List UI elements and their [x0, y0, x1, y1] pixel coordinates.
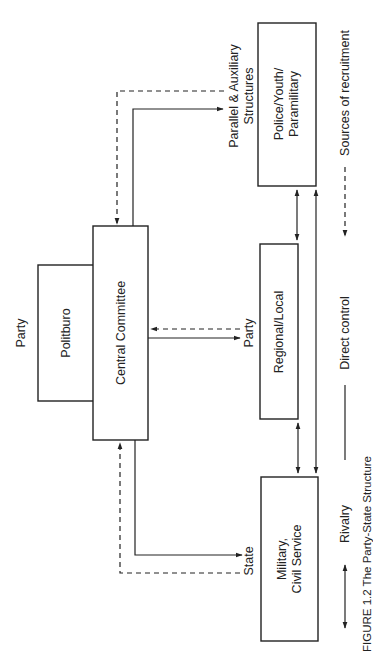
police-label-line2: Paramilitary: [287, 70, 301, 137]
military-civil-service-box: Military, Civil Service: [261, 477, 318, 641]
legend-direct-label: Direct control: [338, 296, 352, 370]
party-connector-label: Party: [242, 318, 256, 348]
central-committee-label: Central Committee: [114, 281, 128, 385]
control-arrow-parallel: [133, 109, 223, 226]
state-connector-label: State: [242, 546, 256, 575]
recruitment-arrow-state: [120, 443, 240, 573]
politburo-label: Politburo: [59, 308, 73, 357]
figure-caption: FIGURE 1.2 The Party-State Structure: [361, 456, 373, 652]
control-arrow-state: [135, 440, 242, 555]
military-label-line2: Civil Service: [290, 525, 304, 594]
regional-label: Regional/Local: [272, 291, 286, 374]
police-youth-paramilitary-box: Police/Youth/ Paramilitary: [258, 23, 316, 186]
party-heading: Party: [14, 318, 28, 348]
legend-sources-label: Sources of recruitment: [338, 30, 352, 156]
legend: Sources of recruitment Direct control Ri…: [338, 30, 352, 628]
police-label-line1: Police/Youth/: [272, 67, 286, 140]
politburo-box: Politburo: [38, 265, 94, 401]
parallel-structures-label-line2: Structures: [242, 68, 256, 125]
legend-rivalry-label: Rivalry: [338, 504, 352, 543]
regional-local-box: Regional/Local: [260, 244, 298, 419]
military-label-line1: Military,: [275, 538, 289, 580]
central-committee-box: Central Committee: [93, 226, 148, 440]
party-state-diagram: Party Politburo Central Committee Police…: [0, 0, 373, 659]
parallel-structures-label-line1: Parallel & Auxiliary: [227, 43, 241, 147]
